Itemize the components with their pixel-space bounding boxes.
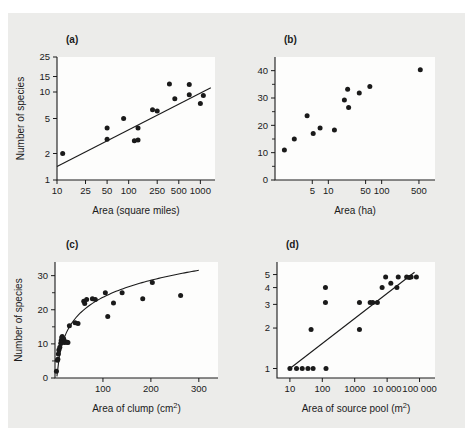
data-point [388,281,393,286]
data-point [93,297,98,302]
panel-c-panel-label: (c) [66,239,78,250]
panel-c: (c)1002003000102030Area of clump (cm2)Nu… [13,239,218,414]
panel-d-ytick-label: 1 [265,363,270,374]
panel-a: (a)1025501002505001000125101525Area (squ… [15,34,215,216]
data-point [370,300,375,305]
data-point [323,300,328,305]
data-point [309,327,314,332]
data-point [345,87,350,92]
panel-a-ytick-label: 2 [45,148,50,159]
panel-a-panel-label: (a) [66,34,78,45]
panel-b-plot-area [275,57,435,180]
panel-d-panel-label: (d) [286,239,299,250]
panel-a-yaxis-title: Number of species [15,77,26,160]
data-point [121,116,126,121]
panel-b-ytick-label: 0 [263,174,268,185]
data-point [136,125,141,130]
data-point [136,137,141,142]
data-point [305,113,310,118]
panel-c-ytick-label: 30 [37,270,48,281]
panel-a-xtick-label: 1000 [190,185,211,196]
data-point [105,314,110,319]
panel-d-xtick-label: 100 000 [402,383,436,394]
panel-b-ytick-label: 40 [257,65,268,76]
data-point [172,96,177,101]
panel-d: (d)10100100010 000100 00012345Area of so… [265,239,437,414]
panel-a-ytick-label: 1 [45,174,50,185]
panel-a-xaxis-title: Area (square miles) [92,205,179,216]
panel-d-ytick-label: 2 [265,322,270,333]
data-point [346,105,351,110]
panel-d-xtick-label: 100 [314,383,330,394]
data-point [198,101,203,106]
panel-d-xtick-label: 10 [285,383,296,394]
panel-c-ytick-label: 0 [43,372,48,383]
data-point [150,107,155,112]
panel-c-ytick-label: 20 [37,304,48,315]
data-point [357,91,362,96]
data-point [105,125,110,130]
data-point [60,151,65,156]
data-point [414,274,419,279]
panel-b-xtick-label: 5 [310,185,315,196]
panel-c-xtick-label: 100 [95,383,111,394]
panel-c-plot-area [55,262,218,378]
data-point [167,82,172,87]
data-point [105,137,110,142]
data-point [103,290,108,295]
data-point [155,108,160,113]
data-point [323,285,328,290]
panel-d-ytick-label: 4 [265,282,270,293]
panel-d-xtick-label: 10 000 [373,383,402,394]
panel-b-xtick-label: 50 [360,185,371,196]
data-point [55,357,60,362]
data-point [396,274,401,279]
data-point [357,327,362,332]
panel-d-xaxis-title: Area of source pool (m2) [302,401,411,414]
data-point [111,300,116,305]
panel-a-ytick-label: 15 [39,71,50,82]
data-point [394,285,399,290]
panel-a-xtick-label: 25 [80,185,91,196]
data-point [292,137,297,142]
figure-page: (a)1025501002505001000125101525Area (squ… [0,0,470,441]
data-point [84,297,89,302]
panel-d-ytick-label: 3 [265,299,270,310]
panel-a-xtick-label: 10 [52,185,63,196]
panel-a-xtick-label: 250 [149,185,165,196]
data-point [324,366,329,371]
data-point [187,82,192,87]
panel-a-xtick-label: 100 [121,185,137,196]
panel-a-ytick-label: 25 [39,51,50,62]
data-point [318,126,323,131]
data-point [67,323,72,328]
data-point [201,93,206,98]
panel-c-xaxis-title: Area of clump (cm2) [92,401,181,414]
panel-d-ytick-label: 5 [265,269,270,280]
data-point [187,92,192,97]
data-point [332,127,337,132]
data-point [120,290,125,295]
data-point [311,366,316,371]
panel-b-ytick-label: 30 [257,92,268,103]
data-point [294,366,299,371]
data-point [305,366,310,371]
panel-b-xtick-label: 10 [323,185,334,196]
data-point [76,321,81,326]
panel-a-xtick-label: 500 [171,185,187,196]
panel-c-xtick-label: 300 [191,383,207,394]
data-point [282,147,287,152]
data-point [178,293,183,298]
data-point [367,84,372,89]
data-point [287,366,292,371]
panel-c-ytick-label: 10 [37,338,48,349]
data-point [311,131,316,136]
panel-b-xtick-label: 100 [374,185,390,196]
data-point [140,296,145,301]
panel-b-xtick-label: 500 [411,185,427,196]
four-panel-species-area-figure: (a)1025501002505001000125101525Area (squ… [0,0,470,441]
data-point [409,274,414,279]
panel-c-xtick-label: 200 [143,383,159,394]
data-point [65,340,70,345]
data-point [300,366,305,371]
